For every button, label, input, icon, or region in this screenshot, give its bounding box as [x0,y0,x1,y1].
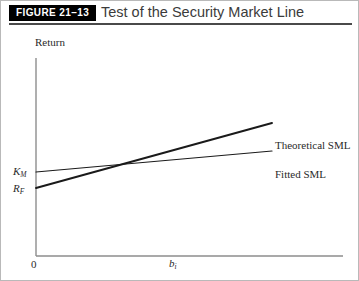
figure-title: Test of the Security Market Line [101,3,304,22]
figure-number-badge: FIGURE 21–13 [9,5,96,21]
series-label-fitted-sml: Fitted SML [275,168,326,180]
theoretical-sml-line [36,123,272,188]
figure-header: FIGURE 21–13 Test of the Security Market… [1,1,359,27]
y-axis-label: Return [35,36,65,48]
figure-container: FIGURE 21–13 Test of the Security Market… [0,0,359,281]
y-tick-label-km: KM [13,165,27,177]
header-divider [9,23,352,25]
chart-plot-area: Return KM RF 0 bi Theoretical SML Fitted… [1,27,359,281]
y-tick-label-rf: RF [13,182,24,194]
fitted-sml-line [36,151,272,172]
origin-label: 0 [31,258,37,270]
chart-svg [1,27,359,281]
series-label-theoretical-sml: Theoretical SML [275,139,350,151]
x-axis-label: bi [169,257,177,269]
